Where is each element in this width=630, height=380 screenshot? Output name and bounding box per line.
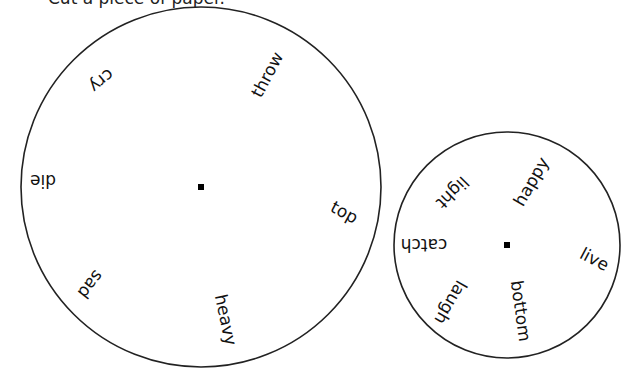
wheel-word: live (577, 243, 613, 275)
word-wheels-diagram: throwcrydietopsadheavyhappylightcatchliv… (0, 0, 630, 380)
wheel-word: sad (74, 267, 108, 303)
large-wheel: throwcrydietopsadheavy (21, 7, 381, 367)
wheel-word: die (30, 171, 56, 191)
wheel-word: cry (85, 65, 118, 97)
wheel-word: heavy (211, 292, 241, 347)
center-dot (504, 242, 510, 248)
center-dot (198, 184, 204, 190)
wheel-word: bottom (507, 279, 535, 343)
wheel-word: catch (401, 235, 448, 255)
wheel-word: top (327, 197, 361, 228)
wheel-word: light (432, 172, 473, 213)
small-wheel: happylightcatchlivelaughbottom (394, 132, 620, 358)
wheel-word: throw (247, 48, 287, 100)
wheel-word: laugh (430, 277, 471, 328)
wheel-word: happy (509, 154, 553, 210)
